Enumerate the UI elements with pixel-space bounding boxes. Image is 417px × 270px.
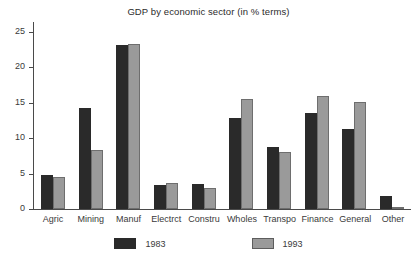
x-axis-label: General xyxy=(336,214,374,224)
y-tick: 0 xyxy=(29,209,34,210)
x-axis-label: Agric xyxy=(34,214,72,224)
bar xyxy=(305,113,317,209)
bar-group xyxy=(373,22,411,209)
bar xyxy=(128,44,140,209)
legend-label: 1983 xyxy=(145,239,165,249)
chart-title: GDP by economic sector (in % terms) xyxy=(0,6,417,17)
x-axis-label: Manuf xyxy=(110,214,148,224)
bar xyxy=(229,118,241,209)
legend-label: 1993 xyxy=(283,239,303,249)
x-axis-labels: AgricMiningManufElectrctConstruWholesTra… xyxy=(34,214,412,224)
x-axis-line xyxy=(33,209,411,210)
bar-group xyxy=(185,22,223,209)
y-tick-label: 5 xyxy=(20,168,25,178)
legend-swatch xyxy=(114,238,136,249)
x-axis-label: Constru xyxy=(185,214,223,224)
bar xyxy=(317,96,329,209)
bar xyxy=(342,129,354,209)
chart-legend: 19831993 xyxy=(0,238,417,249)
legend-swatch xyxy=(252,238,274,249)
bar xyxy=(154,185,166,209)
bar-group xyxy=(109,22,147,209)
bar-group xyxy=(147,22,185,209)
x-axis-label: Wholes xyxy=(223,214,261,224)
x-axis-label: Other xyxy=(374,214,412,224)
bar xyxy=(380,196,392,209)
bar-group xyxy=(298,22,336,209)
bar-group xyxy=(72,22,110,209)
bar-group xyxy=(223,22,261,209)
y-tick-label: 15 xyxy=(15,97,25,107)
bar-group xyxy=(260,22,298,209)
bar xyxy=(241,99,253,209)
bar xyxy=(41,175,53,209)
y-tick-label: 10 xyxy=(15,132,25,142)
bar xyxy=(392,207,404,209)
y-tick-label: 20 xyxy=(15,61,25,71)
legend-item: 1983 xyxy=(114,238,165,249)
x-axis-label: Finance xyxy=(299,214,337,224)
bar xyxy=(267,147,279,209)
bar xyxy=(91,150,103,209)
bar xyxy=(279,152,291,209)
y-tick-label: 0 xyxy=(20,203,25,213)
bar xyxy=(53,177,65,209)
bar-group xyxy=(34,22,72,209)
bar-group xyxy=(336,22,374,209)
bar xyxy=(204,188,216,209)
bar xyxy=(166,183,178,209)
bar-groups xyxy=(34,22,411,209)
x-axis-label: Electrct xyxy=(147,214,185,224)
bar xyxy=(354,102,366,209)
plot-area: 0510152025 xyxy=(33,22,411,210)
x-axis-label: Transpo xyxy=(261,214,299,224)
bar xyxy=(79,108,91,209)
gdp-bar-chart: GDP by economic sector (in % terms) 0510… xyxy=(0,0,417,270)
legend-item: 1993 xyxy=(252,238,303,249)
bar xyxy=(192,184,204,209)
y-tick-label: 25 xyxy=(15,26,25,36)
x-axis-label: Mining xyxy=(72,214,110,224)
bar xyxy=(116,45,128,209)
